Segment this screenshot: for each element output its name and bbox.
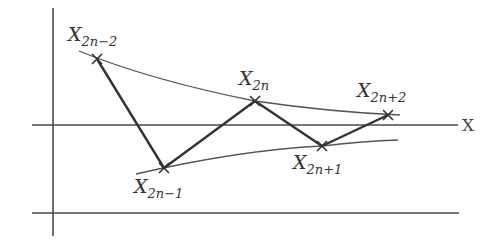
segment-x-2n-minus-2-to-x-2n-minus-1 — [97, 59, 164, 168]
label-x-2n-plus-1: X2n+1 — [291, 151, 342, 177]
label-x-2n-minus-2: X2n−2 — [66, 23, 117, 49]
sequence-diagram: X2n−2 X2n−1 X2n X2n+1 X2n+2 X — [0, 0, 498, 251]
lower-envelope — [136, 140, 398, 174]
label-x-2n: X2n — [237, 67, 269, 93]
x-axis-label: X — [462, 115, 475, 135]
label-x-2n-plus-2: X2n+2 — [355, 79, 406, 105]
segment-x-2n-minus-1-to-x-2n — [164, 101, 255, 168]
label-x-2n-minus-1: X2n−1 — [132, 175, 183, 201]
